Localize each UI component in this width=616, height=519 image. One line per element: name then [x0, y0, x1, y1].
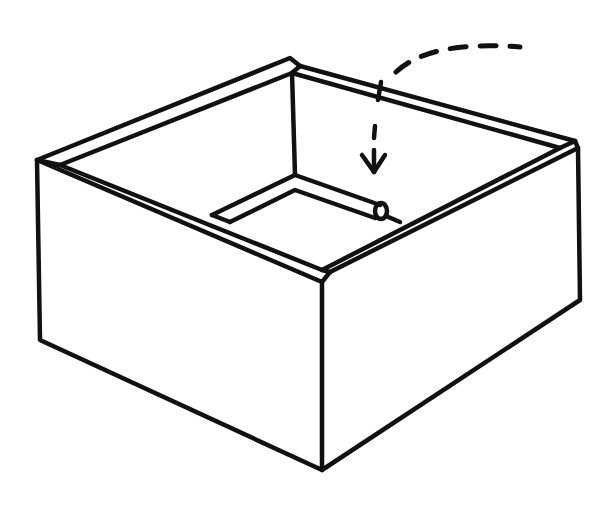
box-diagram: Open box line drawing — [0, 0, 616, 519]
box-front-face — [37, 160, 322, 470]
inner-flap — [212, 175, 400, 222]
box-illustration — [0, 0, 616, 519]
inner-corner-edge — [292, 73, 295, 175]
box-rim — [37, 58, 578, 282]
dashed-arrow — [362, 46, 520, 172]
